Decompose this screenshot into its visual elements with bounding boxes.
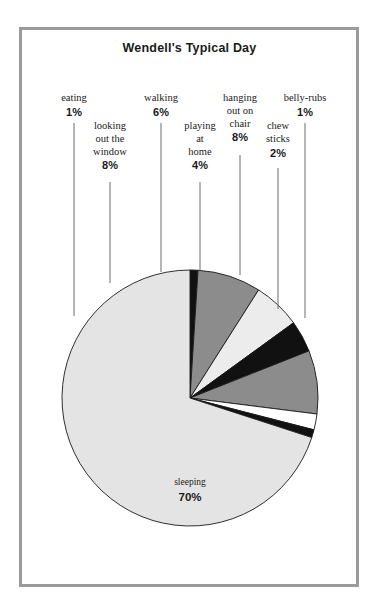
slice-label-percent: 2%: [218, 147, 338, 160]
slice-label-chew-sticks: chewsticks2%: [218, 120, 338, 160]
slice-label-text: chew: [218, 120, 338, 133]
page-title: Wendell's Typical Day: [0, 41, 379, 55]
slice-label-percent: 4%: [140, 159, 260, 172]
slice-label-belly-rubs: belly-rubs1%: [245, 92, 365, 119]
chart-page: Wendell's Typical Day eating1%lookingout…: [0, 0, 379, 614]
slice-label-text: belly-rubs: [245, 92, 365, 105]
slice-label-text: sticks: [218, 133, 338, 146]
slice-label-percent: 1%: [245, 106, 365, 119]
slice-label-sleeping-percent: 70%: [130, 490, 250, 504]
slice-label-sleeping: sleeping 70%: [130, 477, 250, 504]
slice-label-sleeping-name: sleeping: [130, 477, 250, 489]
